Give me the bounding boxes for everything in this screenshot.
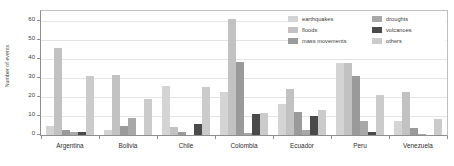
legend-entry-label: mass movements bbox=[302, 38, 347, 44]
legend-entry-label: earthquakes bbox=[302, 16, 333, 22]
bar bbox=[344, 63, 352, 135]
bar bbox=[394, 121, 402, 135]
bar bbox=[194, 124, 202, 135]
x-axis-tick-label: Venezuela bbox=[403, 142, 433, 149]
bar bbox=[286, 89, 294, 135]
bar bbox=[144, 99, 152, 135]
grouped-bar-chart: Number of events 0102030405060 Argentina… bbox=[0, 0, 454, 166]
x-axis-tick-label: Chile bbox=[179, 142, 194, 149]
y-axis-tick-label: 60 bbox=[11, 16, 35, 22]
bar bbox=[302, 130, 310, 135]
x-axis-tick bbox=[273, 136, 274, 139]
x-axis-tick bbox=[389, 136, 390, 139]
grid-line bbox=[41, 97, 447, 98]
bar bbox=[336, 63, 344, 135]
bar bbox=[120, 126, 128, 135]
legend-swatch-icon bbox=[288, 16, 298, 22]
y-axis-tick-label: 10 bbox=[11, 111, 35, 117]
legend-swatch-icon bbox=[372, 38, 382, 44]
x-axis-tick-label: Ecuador bbox=[290, 142, 314, 149]
legend-column-left: earthquakesfloodsmass movements bbox=[288, 13, 372, 49]
bar bbox=[70, 132, 78, 135]
bar bbox=[310, 116, 318, 135]
legend-entry: volcanoes bbox=[372, 24, 446, 35]
legend-swatch-icon bbox=[288, 27, 298, 33]
legend: earthquakesfloodsmass movements droughts… bbox=[288, 13, 446, 49]
bar bbox=[86, 76, 94, 135]
x-axis-tick-label: Bolivia bbox=[119, 142, 138, 149]
x-axis-tick bbox=[99, 136, 100, 139]
x-axis-tick-label: Argentina bbox=[56, 142, 83, 149]
bar bbox=[202, 87, 210, 135]
bar bbox=[360, 121, 368, 135]
bar bbox=[352, 76, 360, 135]
bar bbox=[278, 104, 286, 135]
bar bbox=[112, 75, 120, 135]
x-axis-tick bbox=[447, 136, 448, 139]
legend-column-right: droughtsvolcanoesothers bbox=[372, 13, 446, 49]
y-axis-tick-label: 20 bbox=[11, 92, 35, 98]
legend-entry: earthquakes bbox=[288, 13, 372, 24]
bar bbox=[368, 132, 376, 135]
bar bbox=[236, 62, 244, 135]
bar bbox=[244, 133, 252, 135]
y-axis-tick-label: 50 bbox=[11, 35, 35, 41]
bar bbox=[434, 119, 442, 135]
legend-entry-label: others bbox=[386, 38, 402, 44]
x-axis-tick bbox=[41, 136, 42, 139]
bar bbox=[376, 95, 384, 135]
x-axis-tick-label: Peru bbox=[353, 142, 367, 149]
bar bbox=[170, 127, 178, 135]
x-axis-tick-label: Colombia bbox=[231, 142, 258, 149]
bar bbox=[252, 114, 260, 135]
legend-swatch-icon bbox=[288, 38, 298, 44]
grid-line bbox=[41, 78, 447, 79]
x-axis-tick bbox=[331, 136, 332, 139]
bar bbox=[294, 112, 302, 135]
legend-swatch-icon bbox=[372, 27, 382, 33]
bar bbox=[228, 19, 236, 135]
legend-entry: floods bbox=[288, 24, 372, 35]
bar bbox=[260, 113, 268, 136]
legend-entry-label: droughts bbox=[386, 16, 408, 22]
y-axis-title-label: Number of events bbox=[4, 45, 10, 88]
legend-entry: droughts bbox=[372, 13, 446, 24]
bar bbox=[318, 110, 326, 135]
bar bbox=[410, 128, 418, 135]
x-axis-tick bbox=[215, 136, 216, 139]
bar bbox=[178, 132, 186, 135]
bar bbox=[54, 48, 62, 135]
bar bbox=[162, 86, 170, 135]
bar bbox=[418, 134, 426, 135]
bar bbox=[104, 130, 112, 135]
legend-entry-label: volcanoes bbox=[386, 27, 412, 33]
bar bbox=[46, 126, 54, 135]
legend-entry: others bbox=[372, 35, 446, 46]
legend-entry: mass movements bbox=[288, 35, 372, 46]
y-axis-tick-label: 0 bbox=[11, 130, 35, 136]
bar bbox=[78, 132, 86, 135]
bar bbox=[128, 118, 136, 135]
y-axis-tick-label: 30 bbox=[11, 73, 35, 79]
y-axis-tick-label: 40 bbox=[11, 54, 35, 60]
x-axis-tick bbox=[157, 136, 158, 139]
bar bbox=[62, 130, 70, 135]
legend-swatch-icon bbox=[372, 16, 382, 22]
legend-entry-label: floods bbox=[302, 27, 317, 33]
bar bbox=[402, 92, 410, 135]
bar bbox=[220, 92, 228, 135]
grid-line bbox=[41, 59, 447, 60]
grid-line bbox=[41, 116, 447, 117]
